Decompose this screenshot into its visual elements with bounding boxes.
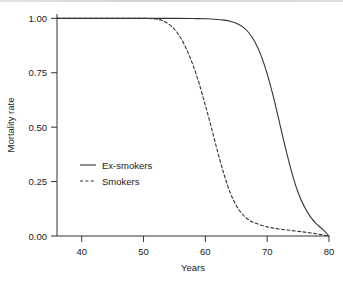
y-tick-label-0.25: 0.25: [29, 176, 48, 187]
y-axis-title: Mortality rate: [5, 98, 16, 153]
series-line-smokers: [57, 18, 329, 236]
y-tick-label-0.75: 0.75: [29, 67, 48, 78]
x-tick-label-70: 70: [262, 246, 273, 257]
chart-legend: Ex-smokersSmokers: [80, 160, 152, 187]
x-axis-tick-labels: 4050607080: [76, 246, 334, 257]
series-line-ex-smokers: [57, 18, 329, 236]
mortality-rate-chart-figure: 0.000.250.500.751.00 4050607080 Mortalit…: [0, 0, 343, 282]
y-tick-label-0.00: 0.00: [29, 231, 48, 242]
y-tick-label-0.50: 0.50: [29, 122, 48, 133]
y-tick-label-1.00: 1.00: [29, 13, 48, 24]
x-axis-ticks: [82, 236, 329, 242]
scan-artifact-line: [0, 0, 343, 2]
y-axis-tick-labels: 0.000.250.500.751.00: [29, 13, 48, 242]
x-tick-label-50: 50: [138, 246, 149, 257]
x-tick-label-60: 60: [200, 246, 211, 257]
x-tick-label-40: 40: [76, 246, 87, 257]
chart-svg: 0.000.250.500.751.00 4050607080 Mortalit…: [0, 0, 343, 282]
x-tick-label-80: 80: [324, 246, 335, 257]
x-axis-title: Years: [181, 262, 205, 273]
data-series-group: [57, 18, 329, 236]
y-axis-ticks: [51, 18, 57, 236]
legend-label-ex-smokers: Ex-smokers: [102, 160, 152, 171]
legend-label-smokers: Smokers: [102, 176, 140, 187]
